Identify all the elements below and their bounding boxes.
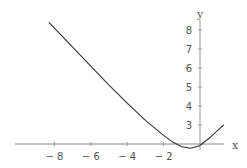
x-tick-label: − 4 <box>118 151 136 162</box>
x-tick-label: − 8 <box>45 151 63 162</box>
x-ticks: − 8− 6− 4− 2 <box>45 142 172 162</box>
data-line <box>49 22 224 148</box>
chart: − 8− 6− 4− 2 345678 x y <box>0 0 247 168</box>
y-tick-label: 8 <box>186 25 192 36</box>
y-axis-label: y <box>196 8 204 21</box>
y-tick-label: 5 <box>186 82 192 93</box>
y-tick-label: 3 <box>186 120 192 131</box>
y-tick-label: 6 <box>186 63 192 74</box>
y-tick-label: 4 <box>186 101 192 112</box>
x-tick-label: − 2 <box>155 151 173 162</box>
x-axis-label: x <box>232 139 239 152</box>
x-tick-label: − 6 <box>82 151 100 162</box>
y-tick-label: 7 <box>186 44 192 55</box>
